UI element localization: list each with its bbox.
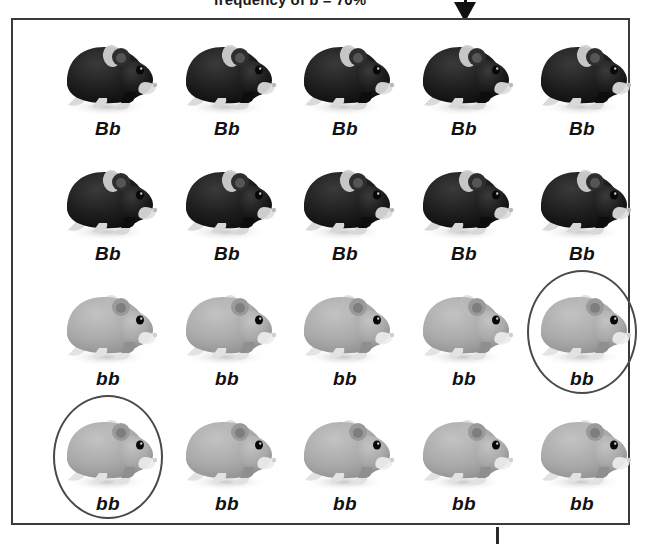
bottom-connector-line — [496, 527, 499, 544]
dark-mouse-icon — [405, 151, 523, 246]
dark-mouse-icon — [523, 26, 641, 121]
organism-cell-r1c5[interactable]: Bb — [523, 26, 641, 151]
organism-cell-r4c5[interactable]: bb — [523, 401, 641, 526]
genotype-label: Bb — [286, 118, 404, 140]
dark-mouse-icon — [286, 26, 404, 121]
genotype-label: bb — [523, 493, 641, 515]
organism-cell-r1c4[interactable]: Bb — [405, 26, 523, 151]
caption-frequency-of-b: frequency of b = 70% — [0, 0, 580, 8]
organism-cell-r4c3[interactable]: bb — [286, 401, 404, 526]
dark-mouse-icon — [523, 151, 641, 246]
light-mouse-icon — [405, 401, 523, 496]
genotype-label: Bb — [49, 118, 167, 140]
organism-cell-r1c1[interactable]: Bb — [49, 26, 167, 151]
dark-mouse-icon — [168, 151, 286, 246]
genotype-label: Bb — [168, 243, 286, 265]
organism-cell-r3c1[interactable]: bb — [49, 276, 167, 401]
genotype-label: bb — [49, 493, 167, 515]
light-mouse-icon — [286, 276, 404, 371]
organism-cell-r3c4[interactable]: bb — [405, 276, 523, 401]
organism-cell-r2c2[interactable]: Bb — [168, 151, 286, 276]
population-grid: Bb — [13, 20, 628, 523]
dark-mouse-icon — [168, 26, 286, 121]
genotype-label: Bb — [168, 118, 286, 140]
organism-cell-r4c4[interactable]: bb — [405, 401, 523, 526]
genotype-label: bb — [168, 368, 286, 390]
genotype-label: bb — [405, 493, 523, 515]
dark-mouse-icon — [405, 26, 523, 121]
dark-mouse-icon — [286, 151, 404, 246]
organism-cell-r2c3[interactable]: Bb — [286, 151, 404, 276]
caption-text: frequency of b = 70% — [214, 0, 366, 8]
light-mouse-icon — [286, 401, 404, 496]
light-mouse-icon — [49, 401, 167, 496]
light-mouse-icon — [168, 276, 286, 371]
genotype-label: bb — [405, 368, 523, 390]
organism-cell-r4c1[interactable]: bb — [49, 401, 167, 526]
organism-cell-r3c5[interactable]: bb — [523, 276, 641, 401]
light-mouse-icon — [168, 401, 286, 496]
organism-cell-r3c3[interactable]: bb — [286, 276, 404, 401]
organism-cell-r1c2[interactable]: Bb — [168, 26, 286, 151]
light-mouse-icon — [49, 276, 167, 371]
organism-cell-r2c4[interactable]: Bb — [405, 151, 523, 276]
genotype-label: bb — [49, 368, 167, 390]
genotype-label: Bb — [523, 243, 641, 265]
genotype-label: bb — [286, 368, 404, 390]
genotype-label: bb — [523, 368, 641, 390]
population-panel: Bb — [11, 18, 630, 525]
organism-cell-r2c1[interactable]: Bb — [49, 151, 167, 276]
dark-mouse-icon — [49, 26, 167, 121]
genotype-label: Bb — [405, 243, 523, 265]
genotype-label: Bb — [49, 243, 167, 265]
dark-mouse-icon — [49, 151, 167, 246]
genotype-label: Bb — [286, 243, 404, 265]
genotype-label: bb — [168, 493, 286, 515]
genotype-label: Bb — [405, 118, 523, 140]
organism-cell-r2c5[interactable]: Bb — [523, 151, 641, 276]
organism-cell-r1c3[interactable]: Bb — [286, 26, 404, 151]
organism-cell-r3c2[interactable]: bb — [168, 276, 286, 401]
light-mouse-icon — [523, 401, 641, 496]
organism-cell-r4c2[interactable]: bb — [168, 401, 286, 526]
diagram-canvas: frequency of b = 70% — [0, 0, 648, 544]
light-mouse-icon — [523, 276, 641, 371]
light-mouse-icon — [405, 276, 523, 371]
genotype-label: Bb — [523, 118, 641, 140]
genotype-label: bb — [286, 493, 404, 515]
